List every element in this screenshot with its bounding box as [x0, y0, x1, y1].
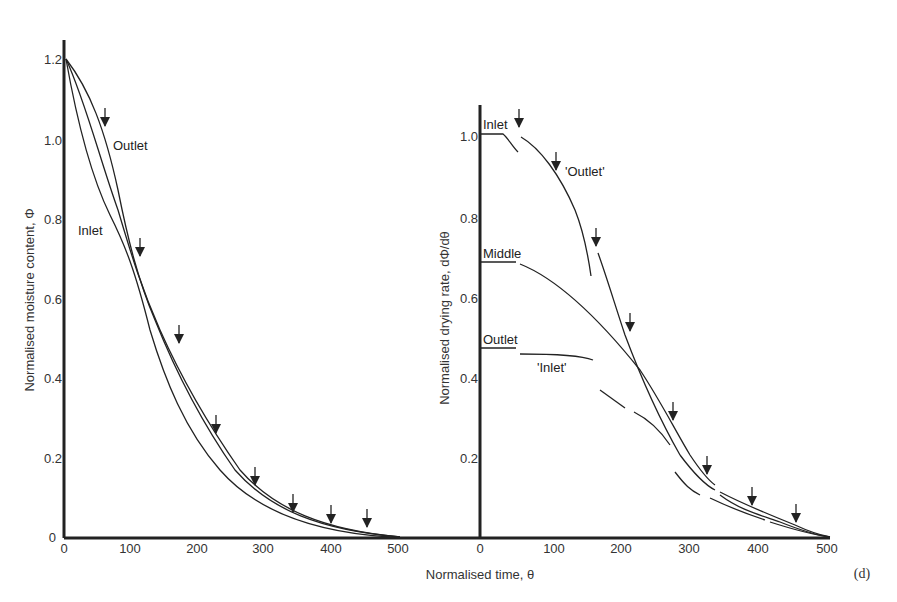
ytick: 1.2 [44, 52, 62, 67]
right-arrows [519, 109, 796, 522]
xtick: 200 [186, 541, 208, 556]
curve-middle-right [481, 262, 830, 537]
left-x-ticks: 0 100 200 300 400 500 [60, 541, 408, 556]
ytick: 0.2 [460, 451, 478, 466]
ytick: 1.0 [460, 129, 478, 144]
right-chart: 0.2 0.4 0.6 0.8 1.0 0 100 200 300 400 50… [437, 105, 838, 556]
xtick: 0 [476, 541, 483, 556]
label-inlet: Inlet [483, 117, 508, 132]
ytick: 0.8 [44, 212, 62, 227]
ytick: 0.4 [44, 371, 62, 386]
xtick: 500 [387, 541, 409, 556]
curve-middle [66, 59, 400, 537]
left-y-ticks: 0 0.2 0.4 0.6 0.8 1.0 1.2 [44, 52, 62, 545]
xtick: 100 [119, 541, 141, 556]
left-y-axis-label: Normalised moisture content, Φ [22, 208, 37, 391]
curve-outlet-inlet [481, 348, 830, 537]
right-x-ticks: 0 100 200 300 400 500 [476, 541, 837, 556]
label-outlet: Outlet [483, 332, 518, 347]
ytick: 0.4 [460, 371, 478, 386]
ytick: 0 [49, 530, 56, 545]
left-chart: 0 0.2 0.4 0.6 0.8 1.0 1.2 0 100 200 300 … [22, 40, 480, 556]
xtick: 200 [610, 541, 632, 556]
xtick: 300 [252, 541, 274, 556]
right-y-ticks: 0.2 0.4 0.6 0.8 1.0 [460, 129, 478, 466]
ytick: 0.2 [44, 451, 62, 466]
label-outlet: Outlet [113, 138, 148, 153]
curve-outlet [66, 59, 400, 537]
xtick: 400 [320, 541, 342, 556]
label-outlet-quoted: 'Outlet' [565, 164, 605, 179]
ytick: 0.6 [460, 291, 478, 306]
xtick: 400 [747, 541, 769, 556]
figure-canvas: 0 0.2 0.4 0.6 0.8 1.0 1.2 0 100 200 300 … [0, 0, 897, 602]
right-y-axis-label: Normalised drying rate, dΦ/dθ [437, 231, 452, 405]
curve-inlet-outlet [481, 134, 830, 537]
xtick: 100 [543, 541, 565, 556]
ytick: 0.8 [460, 211, 478, 226]
ytick: 0.6 [44, 292, 62, 307]
x-axis-label: Normalised time, θ [426, 567, 534, 582]
xtick: 0 [60, 541, 67, 556]
ytick: 1.0 [44, 133, 62, 148]
label-inlet-quoted: 'Inlet' [537, 360, 567, 375]
curve-inlet [66, 59, 390, 537]
xtick: 500 [816, 541, 838, 556]
label-middle: Middle [483, 246, 521, 261]
label-inlet: Inlet [78, 223, 103, 238]
panel-label: (d) [854, 566, 871, 582]
xtick: 300 [678, 541, 700, 556]
